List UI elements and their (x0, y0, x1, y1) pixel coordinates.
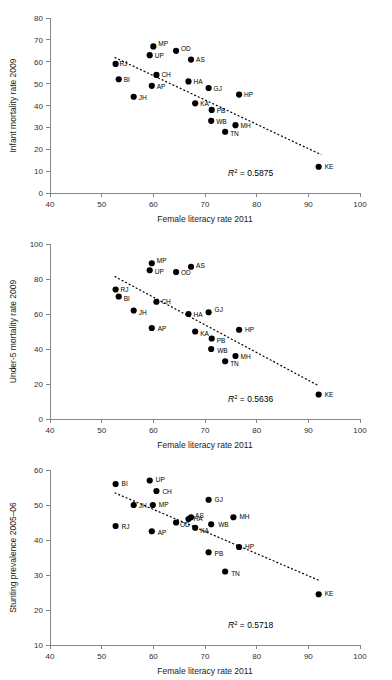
scatter-chart-stunting-prevalence: 102030405060405060708090100BIRJJHUPMPAPC… (0, 452, 392, 678)
y-tick-label: 20 (34, 606, 43, 615)
data-point-label: UP (155, 52, 164, 59)
data-point-label: JH (139, 94, 147, 101)
data-point (173, 48, 179, 54)
data-point (131, 94, 137, 100)
y-tick-label: 100 (30, 240, 44, 249)
data-point (208, 346, 214, 352)
scatter-chart-infant-mortality: 01020304050607080405060708090100RJBIJHMP… (0, 0, 392, 226)
data-point (113, 286, 119, 292)
y-tick-label: 20 (34, 145, 43, 154)
data-point-label: KA (200, 330, 209, 337)
data-point-label: MP (157, 257, 167, 264)
y-tick-label: 70 (34, 36, 43, 45)
data-point-label: WB (217, 347, 227, 354)
data-point-label: AP (158, 325, 167, 332)
y-tick-label: 40 (34, 102, 43, 111)
data-point (188, 56, 194, 62)
data-point-label: AS (196, 262, 205, 269)
data-point-label: WB (216, 118, 226, 125)
y-tick-label: 50 (34, 501, 43, 510)
r-squared-annotation: R2 = 0.5636 (228, 394, 273, 404)
data-point-label: OD (181, 45, 191, 52)
data-point (316, 391, 322, 397)
data-point-label: AP (157, 83, 166, 90)
data-point (147, 477, 153, 483)
data-point (192, 328, 198, 334)
y-tick-label: 60 (34, 58, 43, 67)
data-point (222, 358, 228, 364)
data-point (150, 43, 156, 49)
data-point (149, 260, 155, 266)
data-point-label: PB (217, 107, 226, 114)
data-point-label: BI (124, 76, 130, 83)
r-squared-annotation: R2 = 0.5875 (228, 168, 273, 178)
data-point-label: CH (162, 488, 172, 495)
x-tick-label: 90 (304, 652, 313, 661)
data-point-label: AS (196, 56, 205, 63)
data-point (192, 525, 198, 531)
chart-panel-stunting-prevalence: 102030405060405060708090100BIRJJHUPMPAPC… (0, 452, 392, 678)
data-point-label: MH (240, 122, 250, 129)
data-point-label: GJ (214, 85, 222, 92)
data-point (232, 122, 238, 128)
data-point (153, 72, 159, 78)
data-point (206, 85, 212, 91)
data-point-label: KE (325, 391, 334, 398)
x-tick-label: 80 (252, 652, 261, 661)
x-axis-title: Female literacy rate 2011 (157, 214, 253, 224)
y-tick-label: 30 (34, 571, 43, 580)
data-point (188, 514, 194, 520)
y-tick-label: 40 (34, 345, 43, 354)
x-tick-label: 90 (304, 426, 313, 435)
y-axis-title: Stunting prevalence 2005–06 (8, 502, 18, 613)
y-tick-label: 10 (34, 641, 43, 650)
data-point (150, 502, 156, 508)
x-tick-label: 100 (353, 652, 367, 661)
data-point (116, 293, 122, 299)
data-point-label: KA (200, 100, 209, 107)
data-point (316, 164, 322, 170)
data-point (185, 311, 191, 317)
data-point-label: KE (325, 163, 334, 170)
data-point (236, 327, 242, 333)
y-tick-label: 30 (34, 123, 43, 132)
data-point-label: MH (239, 513, 249, 520)
data-point-label: PB (215, 550, 224, 557)
data-point-label: PB (217, 337, 226, 344)
x-tick-label: 60 (149, 426, 158, 435)
y-tick-label: 60 (34, 466, 43, 475)
data-point-label: JH (139, 309, 147, 316)
y-tick-label: 0 (39, 415, 44, 424)
data-point-label: RJ (120, 60, 128, 67)
data-point (209, 335, 215, 341)
data-point (173, 269, 179, 275)
data-point-label: HP (244, 91, 253, 98)
data-point-label: MP (159, 501, 169, 508)
data-point-label: WB (218, 521, 228, 528)
y-tick-label: 10 (34, 167, 43, 176)
x-axis-title: Female literacy rate 2011 (157, 666, 253, 676)
x-tick-label: 50 (97, 200, 106, 209)
data-point (113, 61, 119, 67)
figure-page: 01020304050607080405060708090100RJBIJHMP… (0, 0, 392, 680)
x-tick-label: 90 (304, 200, 313, 209)
data-point (185, 78, 191, 84)
data-point-label: JH (139, 502, 147, 509)
data-point (147, 267, 153, 273)
data-point-label: GJ (215, 496, 223, 503)
y-tick-label: 40 (34, 536, 43, 545)
data-point (230, 514, 236, 520)
data-point-label: BI (122, 480, 128, 487)
data-point (131, 502, 137, 508)
data-point (236, 91, 242, 97)
chart-panel-under5-mortality: 020406080100405060708090100RJBIJHMPUPAPC… (0, 226, 392, 452)
data-point-label: AP (158, 529, 167, 536)
data-point (173, 519, 179, 525)
x-tick-label: 40 (46, 652, 55, 661)
x-tick-label: 80 (252, 426, 261, 435)
data-point-label: HA (193, 78, 203, 85)
x-tick-label: 70 (201, 652, 210, 661)
y-axis-title: Under-5 mortality rate 2009 (8, 279, 18, 383)
data-point (209, 107, 215, 113)
x-tick-label: 40 (46, 426, 55, 435)
